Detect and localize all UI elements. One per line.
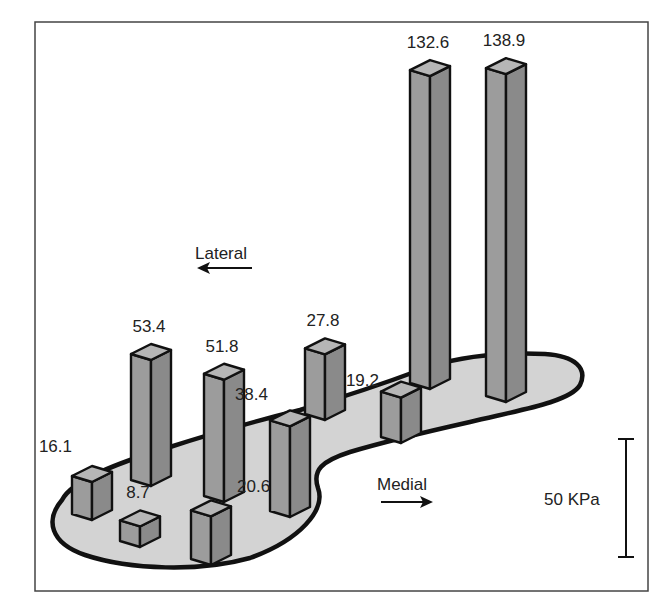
bar-midfoot-lateral-1: 53.4 (131, 317, 171, 486)
bar-value-label: 8.7 (126, 483, 150, 502)
bar-midfoot-lateral-3: 27.8 (305, 311, 345, 420)
lateral-label: Lateral (195, 244, 247, 263)
bar-front-face (381, 392, 401, 443)
bar-side-face (430, 66, 450, 389)
bar-forefoot-1: 132.6 (407, 33, 450, 389)
bar-side-face (506, 64, 526, 402)
bar-side-face (151, 350, 171, 486)
bar-front-face (131, 354, 151, 486)
scale-bar (618, 439, 634, 557)
bar-side-face (290, 416, 310, 517)
bar-value-label: 16.1 (39, 437, 72, 456)
bar-heel-lateral: 16.1 (39, 437, 112, 520)
bar-value-label: 38.4 (235, 385, 268, 404)
plantar-pressure-chart: 138.9132.619.227.853.451.838.416.18.720.… (0, 0, 671, 612)
bar-front-face (204, 374, 224, 502)
bar-value-label: 19.2 (346, 371, 379, 390)
bar-value-label: 20.6 (237, 477, 270, 496)
bar-front-face (72, 476, 92, 520)
lateral-arrow-icon (197, 262, 252, 274)
bar-front-face (486, 68, 506, 402)
bar-value-label: 138.9 (483, 31, 526, 50)
bar-front-face (191, 510, 211, 565)
bar-forefoot-2: 138.9 (483, 31, 526, 402)
medial-arrow-icon (381, 496, 433, 508)
bar-front-face (270, 420, 290, 517)
bar-side-face (325, 344, 345, 420)
medial-label: Medial (377, 475, 427, 494)
bar-front-face (410, 70, 430, 389)
bar-value-label: 53.4 (132, 317, 165, 336)
bar-value-label: 27.8 (306, 311, 339, 330)
scale-bar-label: 50 KPa (544, 490, 600, 509)
bar-value-label: 51.8 (205, 337, 238, 356)
bar-value-label: 132.6 (407, 33, 450, 52)
bar-front-face (305, 348, 325, 420)
